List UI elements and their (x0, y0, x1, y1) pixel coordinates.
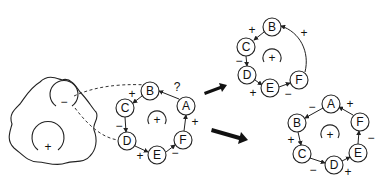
ring-center-sign: + (268, 51, 275, 65)
node-E: E (148, 146, 166, 164)
node-D: D (325, 156, 343, 174)
edge-sign-B-C: + (128, 87, 135, 101)
inner-negative-sign: − (60, 95, 67, 109)
edge-B-C (298, 132, 301, 145)
node-D: D (118, 132, 136, 150)
edge-sign-B-C: + (287, 133, 294, 147)
zoom-line-upper (74, 85, 148, 96)
svg-text:B: B (293, 116, 301, 130)
edge-sign-E-F: − (171, 146, 178, 160)
cell-outline (9, 77, 97, 164)
arrow-to-outcome-2-icon (211, 128, 248, 144)
edge-sign-B-C: + (248, 23, 255, 37)
edge-sign-F-B: + (300, 26, 307, 40)
svg-text:D: D (123, 134, 132, 148)
node-F: F (290, 71, 308, 89)
ring-outcome-1: + + + − + − B C D E F (235, 18, 308, 101)
svg-text:F: F (356, 115, 363, 129)
node-F: F (351, 113, 369, 131)
svg-text:D: D (243, 68, 252, 82)
node-B: B (141, 82, 159, 100)
node-E: E (349, 144, 367, 162)
svg-text:E: E (354, 146, 362, 160)
cell: − + (9, 77, 148, 164)
edge-sign-D-E: + (344, 165, 351, 179)
edge-C-D (246, 56, 247, 66)
inner-positive-sign: + (44, 140, 51, 154)
node-F: F (174, 131, 192, 149)
svg-text:F: F (179, 133, 186, 147)
edge-sign-C-D: − (309, 163, 316, 177)
edge-sign-E-F: − (367, 131, 374, 145)
diagram-canvas: − + + ? + − + − + A B C D E F + (0, 0, 384, 187)
ring-outcome-2: + − + − + − + A B C D E F (287, 95, 374, 179)
node-C: C (116, 99, 134, 117)
edge-sign-E-F: − (284, 87, 291, 101)
edge-sign-D-E: + (249, 86, 256, 100)
node-A: A (177, 97, 195, 115)
svg-text:A: A (182, 99, 190, 113)
edge-sign-D-E: + (136, 149, 143, 163)
edge-C-D (125, 117, 126, 132)
edge-sign-A-B: − (308, 100, 315, 114)
svg-text:B: B (268, 20, 276, 34)
node-B: B (288, 114, 306, 132)
node-C: C (237, 38, 255, 56)
edge-D-E (342, 157, 350, 161)
svg-text:F: F (295, 73, 302, 87)
transition-arrows (204, 83, 248, 144)
edge-F-A (184, 115, 186, 131)
ring-initial: + ? + − + − + A B C D E F (115, 80, 198, 164)
node-D: D (238, 66, 256, 84)
edge-D-E (255, 80, 262, 85)
svg-text:A: A (327, 97, 335, 111)
svg-text:C: C (298, 147, 307, 161)
edge-sign-F-A: + (346, 97, 353, 111)
edge-sign-F-A: + (191, 115, 198, 129)
edge-sign-A-B: ? (174, 80, 181, 94)
svg-text:E: E (266, 81, 274, 95)
svg-text:C: C (242, 40, 251, 54)
ring-center-sign: + (326, 128, 333, 142)
node-E: E (261, 79, 279, 97)
arrow-to-outcome-1-icon (204, 83, 227, 95)
edge-sign-C-D: − (235, 54, 242, 68)
svg-text:B: B (146, 84, 154, 98)
node-B: B (263, 18, 281, 36)
node-C: C (293, 145, 311, 163)
ring-center-sign: + (153, 113, 160, 127)
edge-sign-C-D: − (115, 119, 122, 133)
node-A: A (322, 95, 340, 113)
edge-E-F (358, 131, 359, 144)
svg-text:D: D (330, 158, 339, 172)
svg-text:C: C (121, 101, 130, 115)
svg-text:E: E (153, 148, 161, 162)
